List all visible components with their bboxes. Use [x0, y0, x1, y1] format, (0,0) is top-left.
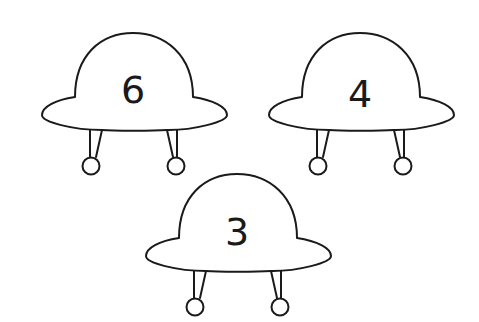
ufo-worksheet: 6 4 3 [0, 0, 479, 322]
ufo-1: 6 [42, 33, 227, 175]
ufo-3: 3 [146, 174, 331, 316]
ufo-number: 4 [348, 72, 372, 116]
ufo-number: 6 [121, 68, 145, 112]
ufo-number: 3 [225, 210, 249, 254]
ufo-2: 4 [269, 33, 454, 175]
